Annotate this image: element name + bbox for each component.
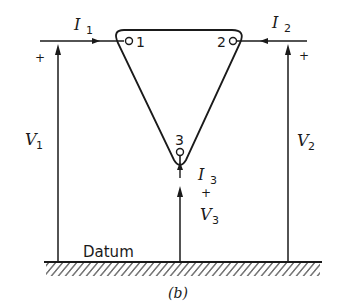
v3-label: V 3 — [200, 205, 219, 227]
svg-text:1: 1 — [36, 139, 43, 152]
v1-arrowhead-icon — [55, 44, 61, 55]
i3-arrow-icon — [177, 162, 183, 170]
v2-label: V 2 — [297, 131, 315, 153]
i1-arrow-icon — [92, 38, 100, 44]
datum-label: Datum — [83, 243, 134, 261]
figure-caption: (b) — [168, 285, 188, 301]
i2-label: I 2 — [271, 13, 291, 35]
i3-label: I 3 — [197, 165, 217, 187]
svg-text:I: I — [197, 165, 205, 184]
svg-text:1: 1 — [86, 24, 93, 37]
network-diagram: 1 2 3 I 1 I 2 I 3 + V 1 + V 2 + V 3 Datu… — [0, 0, 337, 307]
node-3-terminal — [177, 149, 184, 156]
i2-arrow-icon — [260, 38, 268, 44]
v1-plus-sign: + — [35, 51, 45, 65]
v3-arrowhead-icon — [177, 186, 183, 197]
v2-arrowhead-icon — [285, 44, 291, 55]
node-2-label: 2 — [217, 34, 226, 50]
node-1-terminal — [126, 38, 133, 45]
svg-text:2: 2 — [284, 22, 291, 35]
v2-plus-sign: + — [299, 49, 309, 63]
v1-label: V 1 — [25, 130, 43, 152]
node-2-terminal — [230, 38, 237, 45]
node-3-label: 3 — [175, 132, 184, 148]
v3-plus-sign: + — [201, 186, 211, 200]
svg-text:3: 3 — [212, 214, 219, 227]
svg-text:I: I — [271, 13, 279, 32]
i1-label: I 1 — [73, 15, 93, 37]
datum-hatching — [46, 263, 320, 276]
svg-text:I: I — [73, 15, 81, 34]
node-1-label: 1 — [136, 34, 145, 50]
svg-text:2: 2 — [308, 140, 315, 153]
